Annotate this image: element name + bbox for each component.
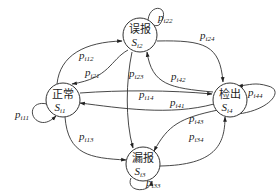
node-s3-label: 漏报 <box>132 151 154 165</box>
edge-label-i11: pi11 <box>14 108 29 122</box>
node-s4: 检出 Si4 <box>213 83 247 117</box>
node-s1-subscript: i1 <box>60 107 65 115</box>
node-s4-label: 检出 <box>219 87 241 101</box>
node-s1-label: 正常 <box>52 88 74 101</box>
node-s2: 误报 Si2 <box>123 18 157 52</box>
node-s4-subscript: i4 <box>227 107 233 115</box>
edge-label-i22: pi22 <box>157 11 173 25</box>
edge-label-i42: pi42 <box>170 70 186 84</box>
edge-label-i23: pi23 <box>128 67 144 81</box>
node-s3: 漏报 Si3 <box>126 147 160 181</box>
node-s2-subscript: i2 <box>137 42 143 50</box>
edge-label-i44: pi44 <box>247 86 263 100</box>
edge-s2-s4 <box>157 41 223 82</box>
edge-s1-s3 <box>65 117 126 160</box>
edge-s4-s3 <box>154 110 218 151</box>
edge-label-i14: pi14 <box>138 88 154 102</box>
edge-label-i21: pi21 <box>84 66 99 80</box>
edge-label-i13: pi13 <box>78 130 94 144</box>
edge-label-i41: pi41 <box>169 96 184 110</box>
node-s2-label: 误报 <box>129 22 151 36</box>
edge-label-i12: pi12 <box>78 49 94 63</box>
edge-s4-s1 <box>80 103 214 110</box>
edge-label-i24: pi24 <box>199 29 215 43</box>
edge-s4-s2 <box>147 52 213 92</box>
state-transition-diagram: 正常 Si1 误报 Si2 漏报 Si3 检出 Si4 pi12 pi21 pi… <box>0 0 280 194</box>
edge-label-i34: pi34 <box>188 130 204 144</box>
node-s1: 正常 Si1 <box>46 83 80 117</box>
